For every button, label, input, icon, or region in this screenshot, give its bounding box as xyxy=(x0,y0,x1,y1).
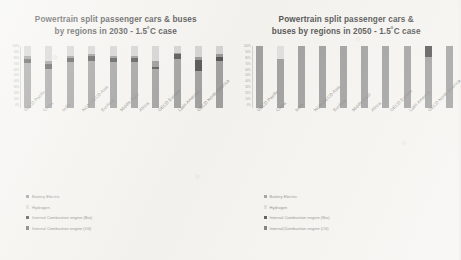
legend-label: Internal Combustion engine (Bio) xyxy=(269,215,329,220)
y-axis-tick: 20% xyxy=(14,93,19,96)
legend-item[interactable]: Internal Combustion engine (Oil) xyxy=(264,226,330,231)
bar-column[interactable] xyxy=(45,46,52,108)
y-axis-tick: 90% xyxy=(245,52,250,55)
stacked-bar[interactable] xyxy=(382,46,389,108)
y-axis-tick: 70% xyxy=(14,63,19,66)
bar-column[interactable] xyxy=(446,46,453,108)
legend-label: Hydrogen xyxy=(32,205,50,210)
bar-segment[interactable] xyxy=(67,46,74,56)
bar-segment[interactable] xyxy=(446,46,453,108)
bar-column[interactable] xyxy=(24,46,31,108)
stacked-bar[interactable] xyxy=(195,46,202,108)
stacked-bar[interactable] xyxy=(277,46,284,108)
chart-title-2050: Powertrain split passenger cars & buses … xyxy=(254,14,440,38)
legend-item[interactable]: Battery Electric xyxy=(26,194,92,199)
y-axis-tick: 50% xyxy=(245,75,250,78)
bar-segment[interactable] xyxy=(195,60,202,71)
legend-swatch-icon xyxy=(26,216,29,219)
stacked-bar[interactable] xyxy=(425,46,432,108)
bar-segment[interactable] xyxy=(256,46,263,108)
legend-swatch-icon xyxy=(264,226,267,229)
legend-swatch-icon xyxy=(264,216,267,219)
bar-segment[interactable] xyxy=(298,46,305,108)
legend-item[interactable]: Hydrogen xyxy=(26,205,92,210)
stacked-bar[interactable] xyxy=(45,46,52,108)
y-axis-tick: 80% xyxy=(245,57,250,60)
y-axis-tick: 10% xyxy=(245,99,250,102)
y-axis-tick: 80% xyxy=(14,57,19,60)
y-axis-tick: 50% xyxy=(14,75,19,78)
chart-title-2050-line2: buses by regions in 2050 - 1.5˚C case xyxy=(254,26,440,38)
y-axis-tick: 0% xyxy=(15,105,19,108)
legend-label: Battery Electric xyxy=(32,194,60,199)
stacked-bar[interactable] xyxy=(298,46,305,108)
bar-segment[interactable] xyxy=(382,46,389,108)
legend-label: Battery Electric xyxy=(269,194,297,199)
y-axis-tick: 30% xyxy=(245,87,250,90)
y-axis-tick: 0% xyxy=(247,105,251,108)
stacked-bar[interactable] xyxy=(152,46,159,108)
bar-segment[interactable] xyxy=(195,46,202,57)
x-axis-labels-2050: OECD PacificChinaIndiaNON-OECD AsiaEurAs… xyxy=(254,109,456,169)
legend-2050: Battery ElectricHydrogenInternal Combust… xyxy=(264,194,330,236)
y-axis-tick: 90% xyxy=(14,52,19,55)
y-axis-tick: 60% xyxy=(14,69,19,72)
y-axis-tick: 40% xyxy=(245,81,250,84)
y-axis-tick: 100% xyxy=(244,46,251,49)
bar-segment[interactable] xyxy=(174,46,181,53)
bar-segment[interactable] xyxy=(174,59,181,108)
bar-column[interactable] xyxy=(277,46,284,108)
bar-segment[interactable] xyxy=(110,46,117,56)
chart-title-2030-line1: Powertrain split passenger cars & buses xyxy=(16,14,216,26)
bar-column[interactable] xyxy=(256,46,263,108)
bar-segment[interactable] xyxy=(24,46,31,57)
stacked-bar[interactable] xyxy=(446,46,453,108)
legend-item[interactable]: Internal Combustion engine (Bio) xyxy=(26,215,92,220)
y-axis-tick: 100% xyxy=(12,46,19,49)
bar-segment[interactable] xyxy=(131,46,138,56)
chart-panel-2050: Powertrain split passenger cars & buses … xyxy=(230,0,460,260)
legend-label: Hydrogen xyxy=(269,205,287,210)
stacked-bar[interactable] xyxy=(256,46,263,108)
bar-segment[interactable] xyxy=(216,46,223,55)
legend-label: Internal Combustion engine (Bio) xyxy=(32,215,92,220)
legend-swatch-icon xyxy=(26,205,29,208)
bar-column[interactable] xyxy=(216,46,223,108)
legend-2030: Battery ElectricHydrogenInternal Combust… xyxy=(26,194,92,236)
y-axis-tick: 60% xyxy=(245,69,250,72)
stacked-bar[interactable] xyxy=(216,46,223,108)
y-axis-tick: 30% xyxy=(14,87,19,90)
bar-segment[interactable] xyxy=(425,46,432,57)
legend-item[interactable]: Internal Combustion engine (Bio) xyxy=(264,215,330,220)
legend-swatch-icon xyxy=(26,226,29,229)
chart-title-2050-line1: Powertrain split passenger cars & xyxy=(254,14,440,26)
bar-segment[interactable] xyxy=(45,46,52,61)
bar-column[interactable] xyxy=(382,46,389,108)
bar-segment[interactable] xyxy=(152,69,159,107)
bar-column[interactable] xyxy=(298,46,305,108)
y-axis-tick: 20% xyxy=(245,93,250,96)
bar-segment[interactable] xyxy=(152,46,159,61)
legend-item[interactable]: Battery Electric xyxy=(264,194,330,199)
stacked-bar[interactable] xyxy=(24,46,31,108)
x-axis-labels-2030: OECD PacificChinaIndiaNON-OECD AsiaEurAs… xyxy=(22,109,226,169)
bar-column[interactable] xyxy=(152,46,159,108)
bar-column[interactable] xyxy=(195,46,202,108)
legend-swatch-icon xyxy=(26,195,29,198)
bar-segment[interactable] xyxy=(88,46,95,55)
legend-swatch-icon xyxy=(264,205,267,208)
bar-segment[interactable] xyxy=(425,57,432,108)
y-axis-tick: 70% xyxy=(245,63,250,66)
legend-item[interactable]: Internal Combustion engine (Oil) xyxy=(26,226,92,231)
bar-column[interactable] xyxy=(67,46,74,108)
legend-item[interactable]: Hydrogen xyxy=(264,205,330,210)
stacked-bar[interactable] xyxy=(174,46,181,108)
stacked-bar[interactable] xyxy=(67,46,74,108)
bar-column[interactable] xyxy=(174,46,181,108)
chart-panel-2030: Powertrain split passenger cars & buses … xyxy=(0,0,230,260)
legend-label: Internal Combustion engine (Oil) xyxy=(32,226,91,231)
bar-column[interactable] xyxy=(425,46,432,108)
bar-segment[interactable] xyxy=(277,46,284,60)
bar-group-2030 xyxy=(21,46,226,108)
